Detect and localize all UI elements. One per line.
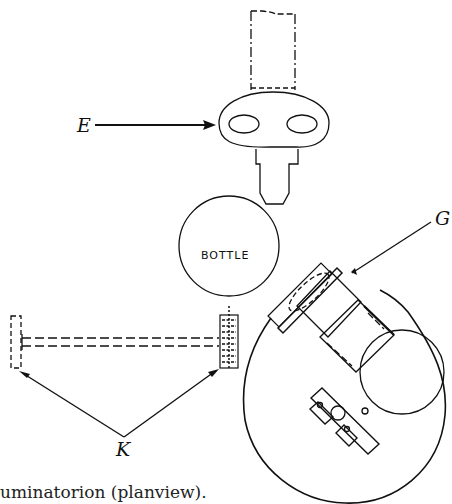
figure-caption: uminatorion (planview). xyxy=(0,484,207,501)
dashed-tube xyxy=(251,11,295,90)
bottle-label: BOTTLE xyxy=(201,250,249,261)
bottle-circle xyxy=(179,196,279,296)
arrow-g xyxy=(352,222,431,273)
diagram-canvas: E G K BOTTLE uminatorion (planview). xyxy=(0,0,452,504)
arrows-k xyxy=(24,372,214,437)
textured-connector xyxy=(220,306,238,368)
eyepiece-head xyxy=(219,92,329,204)
microscope-body xyxy=(268,263,444,454)
dashed-rod xyxy=(11,316,219,368)
label-g: G xyxy=(435,209,450,228)
label-k: K xyxy=(116,440,130,459)
label-e: E xyxy=(77,116,91,135)
